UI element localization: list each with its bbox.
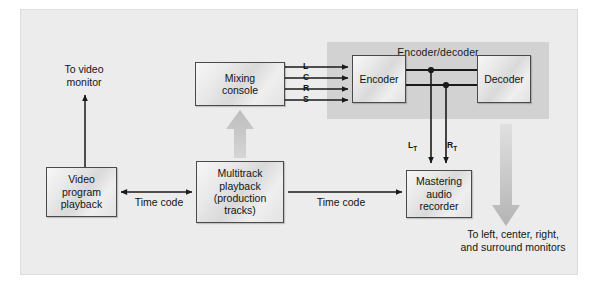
- signal-label-s: S: [303, 94, 309, 104]
- signal-label-rt-sub: T: [453, 145, 457, 152]
- box-mastering-audio-recorder-label: Mastering audio recorder: [414, 175, 464, 212]
- box-decoder-label: Decoder: [482, 73, 526, 85]
- box-mastering-audio-recorder[interactable]: Mastering audio recorder: [406, 170, 472, 218]
- figure-root: Encoder/decoder: [0, 0, 597, 289]
- box-multitrack-playback-label: Multitrack playback (production tracks): [212, 167, 269, 217]
- signal-label-rt: RT: [447, 140, 457, 152]
- signal-label-lt: LT: [408, 140, 417, 152]
- signal-label-l: L: [303, 61, 308, 71]
- signal-label-c: C: [303, 72, 309, 82]
- label-to-video-monitor: To video monitor: [38, 63, 130, 88]
- box-video-program-playback-label: Video program playback: [59, 173, 104, 210]
- box-multitrack-playback[interactable]: Multitrack playback (production tracks): [196, 161, 284, 223]
- label-time-code-left: Time code: [122, 196, 196, 209]
- box-video-program-playback[interactable]: Video program playback: [46, 167, 117, 217]
- label-to-monitors: To left, center, right, and surround mon…: [440, 228, 586, 253]
- box-encoder-label: Encoder: [357, 73, 400, 85]
- signal-label-lt-sub: T: [413, 145, 417, 152]
- signal-label-r: R: [303, 83, 309, 93]
- box-decoder[interactable]: Decoder: [477, 55, 531, 103]
- label-time-code-right: Time code: [296, 196, 386, 209]
- box-mixing-console-label: Mixing console: [220, 72, 260, 97]
- box-encoder[interactable]: Encoder: [352, 55, 406, 103]
- box-mixing-console[interactable]: Mixing console: [195, 62, 285, 106]
